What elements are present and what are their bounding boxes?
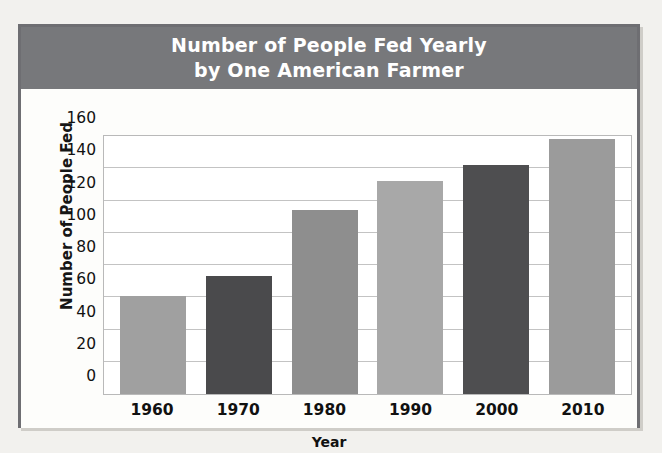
bar-1990 [377, 181, 443, 394]
chart-title-banner: Number of People Fed Yearly by One Ameri… [21, 27, 637, 89]
y-axis-tick-label: 40 [76, 303, 96, 321]
bar-2000 [463, 165, 529, 394]
y-axis-tick-label: 140 [66, 141, 96, 159]
y-axis-tick-label: 120 [66, 174, 96, 192]
bar-slot [463, 136, 529, 394]
y-axis-tick-label: 0 [86, 367, 96, 385]
chart-figure: Number of People Fed Yearly by One Ameri… [18, 24, 640, 428]
bar-slot [206, 136, 272, 394]
y-axis-tick-label: 160 [66, 109, 96, 127]
y-axis-tick-label: 80 [76, 238, 96, 256]
x-axis-tick-label-2000: 2000 [464, 401, 530, 419]
y-axis-tick-label: 100 [66, 206, 96, 224]
bar-series [104, 136, 631, 394]
bar-slot [292, 136, 358, 394]
x-axis-tick-label-1970: 1970 [205, 401, 271, 419]
y-axis-tick-label: 60 [76, 270, 96, 288]
x-axis-tick-label-1990: 1990 [378, 401, 444, 419]
bar-1980 [292, 210, 358, 394]
bar-1970 [206, 276, 272, 394]
bar-slot [377, 136, 443, 394]
x-axis-title: Year [21, 434, 637, 450]
bar-2010 [549, 139, 615, 394]
bar-1960 [120, 296, 186, 394]
plot-area: 160140120100806040200 [103, 135, 632, 395]
x-axis-tick-labels: 196019701980199020002010 [103, 401, 632, 419]
bar-slot [120, 136, 186, 394]
bar-slot [549, 136, 615, 394]
chart-title-line-1: Number of People Fed Yearly [171, 33, 487, 58]
chart-plot-panel: Number of People Fed 1601401201008060402… [21, 89, 637, 428]
x-axis-tick-label-2010: 2010 [550, 401, 616, 419]
y-axis-tick-label: 20 [76, 335, 96, 353]
x-axis-tick-label-1980: 1980 [291, 401, 357, 419]
x-axis-tick-label-1960: 1960 [119, 401, 185, 419]
chart-title-line-2: by One American Farmer [194, 58, 464, 83]
